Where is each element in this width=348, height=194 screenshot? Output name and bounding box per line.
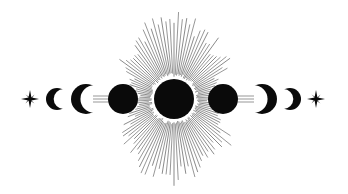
ray-line xyxy=(145,23,165,76)
full-moon-right-icon xyxy=(208,84,238,114)
ray-line xyxy=(176,19,182,75)
ray-line xyxy=(133,58,158,83)
ray-line xyxy=(137,104,152,107)
star-left-icon xyxy=(21,90,39,108)
ray-line xyxy=(140,95,150,96)
ray-line xyxy=(196,97,210,98)
ray-line xyxy=(192,56,217,81)
ray-line xyxy=(134,116,157,139)
waxing-crescent-small-icon xyxy=(46,88,68,110)
ray-line xyxy=(193,57,220,82)
ray-line xyxy=(135,55,159,81)
full-moon-left-icon xyxy=(108,84,138,114)
sun-center-icon xyxy=(154,79,194,119)
celestial-bodies xyxy=(21,79,325,119)
ray-line xyxy=(199,103,209,105)
moon-phases-illustration xyxy=(0,0,348,194)
waning-crescent-small-icon xyxy=(279,88,301,110)
ray-line xyxy=(139,97,150,98)
ray-line xyxy=(180,19,195,75)
ray-line xyxy=(197,100,207,101)
ray-line xyxy=(182,120,200,167)
ray-line xyxy=(175,12,178,75)
waxing-crescent-large-icon xyxy=(71,84,101,114)
ray-line xyxy=(131,118,159,152)
star-right-icon xyxy=(307,90,325,108)
waning-crescent-large-icon xyxy=(247,84,277,114)
ray-line xyxy=(119,59,154,84)
